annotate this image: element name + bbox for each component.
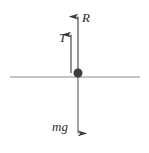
label-weight-force: mg (52, 119, 68, 134)
free-body-diagram-figure: R T mg (0, 0, 149, 153)
point-mass (74, 69, 83, 78)
label-normal-reaction-force: R (81, 10, 90, 25)
force-diagram-canvas: R T mg (0, 0, 149, 153)
label-tension-force: T (59, 30, 67, 45)
